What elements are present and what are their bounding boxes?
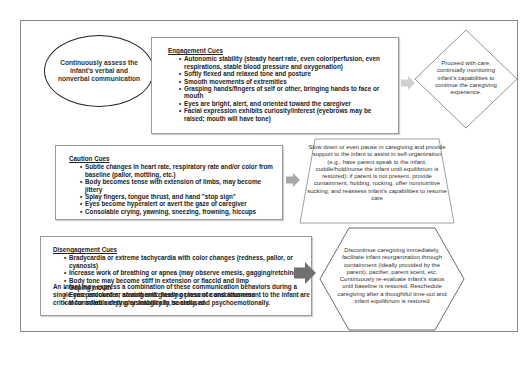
engagement-title: Engagement Cues bbox=[168, 47, 390, 54]
disengagement-action-text: Discontinue caregiving immediately, faci… bbox=[335, 247, 449, 305]
assess-ellipse-text: Continuously assess the infant's verbal … bbox=[57, 59, 141, 84]
engagement-item: Smooth movements of extremities bbox=[179, 78, 390, 85]
disengagement-item: Bradycardia or extreme tachycardia with … bbox=[64, 254, 303, 269]
caution-item: Subtle changes in heart rate, respirator… bbox=[80, 163, 274, 178]
engagement-cues-box: Engagement Cues Autonomic stability (ste… bbox=[151, 37, 399, 134]
engagement-action-text: Proceed with care, continually monitorin… bbox=[433, 60, 499, 96]
footer-note: An infant may express a combination of t… bbox=[53, 283, 315, 306]
caution-item: Splay fingers, tongue thrust, and hand "… bbox=[80, 193, 274, 200]
diagram-frame: Continuously assess the infant's verbal … bbox=[20, 20, 518, 332]
caution-item: Eyes become hyperalert or avert the gaze… bbox=[80, 200, 274, 207]
caution-action-text: Slow down or even pause in caregiving an… bbox=[307, 144, 447, 202]
caution-list: Subtle changes in heart rate, respirator… bbox=[69, 163, 274, 215]
engagement-item: Grasping hands/fingers of self or other,… bbox=[179, 85, 390, 100]
engagement-list: Autonomic stability (steady heart rate, … bbox=[168, 55, 390, 122]
disengagement-item: Increase work of breathing or apnea (may… bbox=[64, 269, 303, 276]
engagement-item: Softly flexed and relaxed tone and postu… bbox=[179, 70, 390, 77]
caution-item: Body becomes tense with extension of lim… bbox=[80, 178, 274, 193]
disengagement-arrow-icon bbox=[294, 262, 316, 284]
caution-item: Consolable crying, yawning, sneezing, fr… bbox=[80, 208, 274, 215]
caution-title: Caution Cues bbox=[69, 155, 274, 162]
engagement-item: Autonomic stability (steady heart rate, … bbox=[179, 55, 390, 70]
engagement-item: Eyes are bright, alert, and oriented tow… bbox=[179, 100, 390, 107]
assess-ellipse: Continuously assess the infant's verbal … bbox=[44, 35, 154, 107]
disengagement-title: Disengagement Cues bbox=[53, 246, 303, 253]
engagement-item: Facial expression exhibits curiosity/int… bbox=[179, 107, 390, 122]
caution-cues-box: Caution Cues Subtle changes in heart rat… bbox=[55, 145, 283, 220]
engagement-arrow-icon bbox=[401, 76, 415, 90]
